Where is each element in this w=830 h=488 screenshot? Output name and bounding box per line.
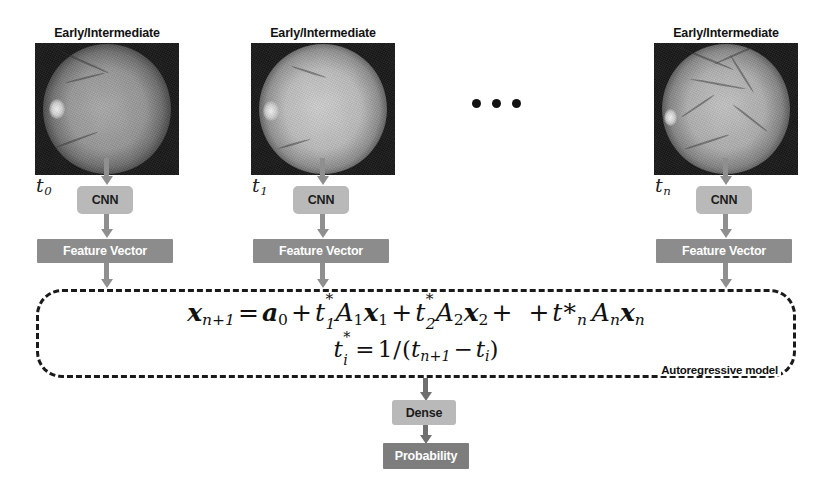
arrow-feature-to-model-t0 (104, 263, 109, 280)
stage-label-tn: Early/Intermediate (673, 26, 779, 40)
optic-disc-highlight (664, 109, 677, 126)
optic-disc-highlight (49, 99, 65, 119)
time-label-tn: tn (655, 176, 671, 198)
cnn-node-t0[interactable]: CNN (77, 186, 133, 214)
arrow-cnn-to-feature-t0 (104, 214, 109, 230)
feature-vector-node-tn[interactable]: Feature Vector (656, 239, 792, 263)
optic-disc-highlight (263, 101, 279, 121)
ellipsis-dot (492, 99, 501, 108)
time-label-t1: t1 (252, 176, 268, 198)
dense-node[interactable]: Dense (392, 400, 456, 425)
equation-line-1: xn+1=a0+t*1A1x1+t*2A2x2++t*nAnxn (39, 298, 793, 329)
ellipsis-dot (512, 99, 521, 108)
arrow-model-to-dense (423, 378, 428, 393)
fundus-image-t0 (35, 43, 179, 175)
ellipsis-indicator (472, 99, 521, 108)
feature-vector-node-t1[interactable]: Feature Vector (253, 239, 389, 263)
retina-disc (662, 44, 790, 174)
arrow-dense-to-probability (423, 425, 428, 436)
stage-label-t0: Early/Intermediate (54, 26, 160, 40)
cnn-node-tn[interactable]: CNN (696, 186, 752, 214)
stage-label-t1: Early/Intermediate (270, 26, 376, 40)
equation-line-2: t*i=1/(tn+1−ti) (39, 336, 793, 364)
fundus-image-t1 (251, 43, 395, 175)
cnn-node-t1[interactable]: CNN (293, 186, 349, 214)
ellipsis-dot (472, 99, 481, 108)
arrow-image-to-cnn-tn (723, 158, 728, 177)
feature-vector-node-t0[interactable]: Feature Vector (37, 239, 173, 263)
probability-node[interactable]: Probability (383, 443, 469, 469)
arrow-cnn-to-feature-t1 (320, 214, 325, 230)
autoregressive-model-panel: xn+1=a0+t*1A1x1+t*2A2x2++t*nAnxn t*i=1/(… (36, 289, 796, 378)
diagram-canvas: Early/Intermediate t0 CNN Feature Vector… (0, 0, 830, 488)
autoregressive-model-label: Autoregressive model (658, 364, 781, 376)
arrow-cnn-to-feature-tn (723, 214, 728, 230)
arrow-image-to-cnn-t0 (104, 158, 109, 177)
arrow-image-to-cnn-t1 (320, 158, 325, 177)
fundus-image-tn (654, 43, 798, 175)
arrow-feature-to-model-t1 (320, 263, 325, 280)
arrow-feature-to-model-tn (723, 263, 728, 280)
time-label-t0: t0 (36, 176, 52, 198)
